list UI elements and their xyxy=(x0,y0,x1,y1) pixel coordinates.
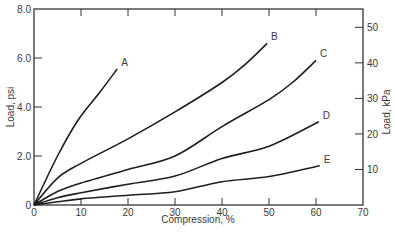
curve-label-c: C xyxy=(320,48,327,59)
curves: ABCDE xyxy=(34,31,331,205)
x-tick-label: 0 xyxy=(31,207,37,218)
y-axis-right: 1020304050 xyxy=(355,22,379,175)
load-vs-compression-chart: 010203040506070 02.04.06.08.0 1020304050… xyxy=(0,0,395,235)
curve-e xyxy=(34,166,320,205)
curve-c xyxy=(34,60,316,205)
chart-canvas: 010203040506070 02.04.06.08.0 1020304050… xyxy=(0,0,395,235)
y-tick-label: 4.0 xyxy=(17,102,31,113)
y-right-tick-label: 40 xyxy=(367,58,379,69)
x-tick-label: 70 xyxy=(357,207,369,218)
y-right-tick-label: 20 xyxy=(367,129,379,140)
y-axis-title-right: Load, kPa xyxy=(381,89,392,134)
y-tick-label: 8.0 xyxy=(17,4,31,15)
plot-frame xyxy=(34,9,363,205)
x-tick-label: 50 xyxy=(263,207,275,218)
curve-label-d: D xyxy=(323,110,330,121)
x-tick-label: 20 xyxy=(122,207,134,218)
y-right-tick-label: 30 xyxy=(367,93,379,104)
y-axis-title-left: Load, psi xyxy=(5,87,16,128)
x-tick-label: 60 xyxy=(310,207,322,218)
curve-d xyxy=(34,122,319,205)
x-axis-title: Compression, % xyxy=(161,214,234,225)
curve-label-b: B xyxy=(271,31,278,42)
y-tick-label: 6.0 xyxy=(17,53,31,64)
y-axis-left: 02.04.06.08.0 xyxy=(17,4,42,211)
y-tick-label: 0 xyxy=(25,200,31,211)
y-tick-label: 2.0 xyxy=(17,151,31,162)
x-tick-label: 10 xyxy=(75,207,87,218)
curve-label-e: E xyxy=(324,154,331,165)
y-right-tick-label: 50 xyxy=(367,22,379,33)
y-right-tick-label: 10 xyxy=(367,164,379,175)
curve-label-a: A xyxy=(121,57,128,68)
